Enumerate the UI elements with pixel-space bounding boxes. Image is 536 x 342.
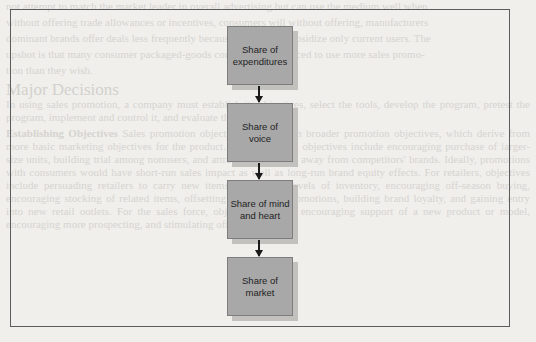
arrow-down-icon bbox=[258, 86, 260, 102]
node-box: Share of expenditures bbox=[227, 26, 293, 85]
node-share-of-expenditures: Share of expenditures bbox=[227, 26, 293, 85]
node-box: Share of market bbox=[227, 257, 293, 316]
page: not attempt to match the market leader i… bbox=[0, 0, 536, 342]
node-share-of-market: Share of market bbox=[227, 257, 293, 316]
node-share-of-voice: Share of voice bbox=[227, 103, 293, 162]
arrow-down-icon bbox=[258, 163, 260, 179]
node-box: Share of mind and heart bbox=[227, 180, 293, 239]
arrow-down-icon bbox=[258, 240, 260, 256]
node-box: Share of voice bbox=[227, 103, 293, 162]
node-share-of-mind-and-heart: Share of mind and heart bbox=[227, 180, 293, 239]
